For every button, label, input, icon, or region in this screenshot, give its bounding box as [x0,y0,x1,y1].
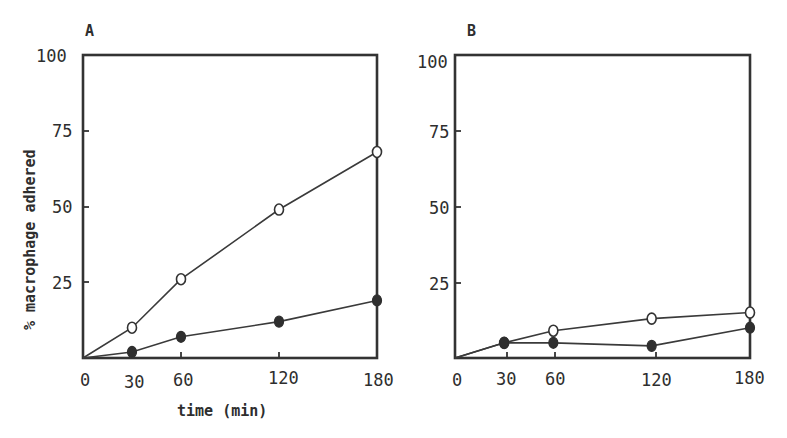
y-tick-label: 100 [417,52,448,72]
open-circle-marker-icon [275,204,284,215]
x-tick-label: 30 [496,369,516,389]
open-circle-marker-icon [746,307,755,318]
panel-a-plot-frame [83,55,377,358]
open-circle-marker-icon [128,322,137,333]
panel-b-letter: B [467,22,476,40]
open-circle-marker-icon [177,274,186,285]
filled-circle-marker-icon [500,337,509,348]
x-tick-label: 30 [124,372,144,392]
x-tick-label: 180 [363,370,394,390]
x-tick-label: 60 [173,370,193,390]
filled-circle-marker-icon [647,340,656,351]
filled-circle-marker-icon [549,337,558,348]
filled-circle-marker-icon [128,346,137,357]
x-tick-label: 180 [734,368,765,388]
panel-b-plot-frame [455,55,750,358]
y-tick-label: 25 [429,274,449,294]
filled-circle-marker-icon [275,316,284,327]
x-tick-label: 60 [545,369,565,389]
filled-circle-marker-icon [177,331,186,342]
x-tick-label: 120 [641,370,672,390]
panel-a-y-ticks: 100 75 50 25 [36,46,89,293]
open-circle-marker-icon [647,313,656,324]
open-circle-marker-icon [549,325,558,336]
panel-a-letter: A [85,22,94,40]
figure-canvas: A 100 75 50 25 0 30 60 120 180 B 100 [0,0,787,438]
y-tick-label: 75 [429,122,449,142]
panel-a: A 100 75 50 25 0 30 60 120 180 [36,22,394,392]
open-circle-marker-icon [373,146,382,157]
y-tick-label: 100 [36,46,67,66]
y-tick-label: 25 [52,273,72,293]
x-tick-label: 0 [452,370,462,390]
y-axis-title: % macrophage adhered [21,149,39,330]
x-tick-label: 0 [80,370,90,390]
x-axis-title: time (min) [177,402,267,420]
x-tick-label: 120 [268,368,299,388]
filled-circle-marker-icon [746,322,755,333]
filled-circle-marker-icon [373,295,382,306]
panel-b: B 100 75 50 25 0 30 60 120 180 [417,22,765,390]
panel-b-series [455,307,755,358]
panel-a-series [83,146,382,358]
y-tick-label: 50 [429,198,449,218]
y-tick-label: 50 [52,197,72,217]
y-tick-label: 75 [52,121,72,141]
